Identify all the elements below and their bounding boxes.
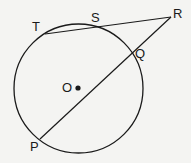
label-o: O: [62, 80, 72, 95]
label-s: S: [91, 10, 100, 25]
diagram-svg: T S R Q O P: [0, 0, 191, 163]
label-r: R: [173, 6, 182, 21]
label-t: T: [32, 19, 40, 34]
secant-pqr: [40, 17, 171, 139]
center-dot: [75, 85, 80, 90]
geometry-diagram: T S R Q O P: [0, 0, 191, 163]
label-q: Q: [135, 46, 145, 61]
label-p: P: [30, 139, 39, 154]
